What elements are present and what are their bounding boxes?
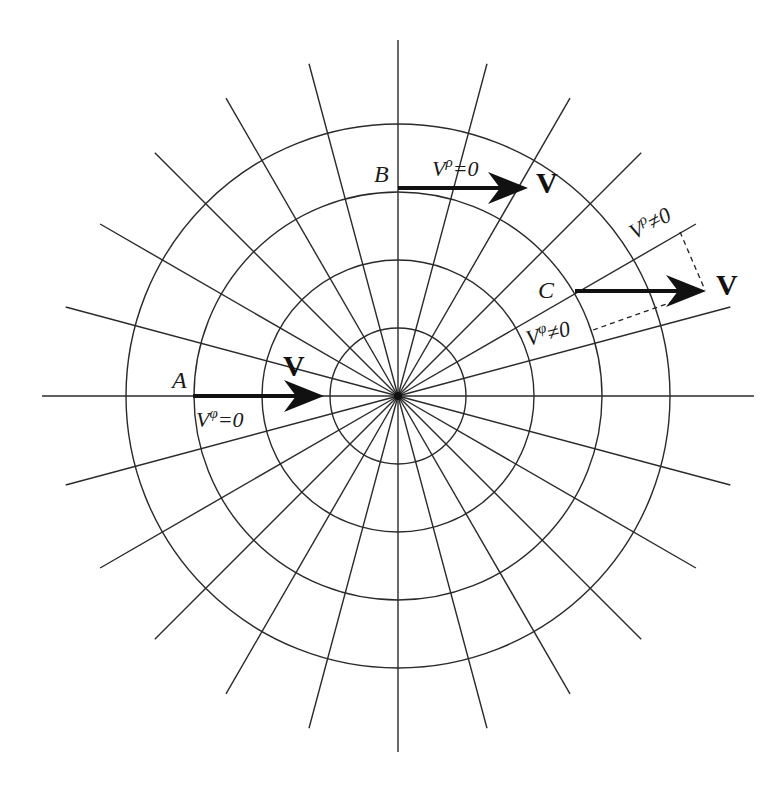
grid-ray-60deg — [398, 98, 570, 396]
vector-b-label: V — [536, 166, 558, 199]
point-c-group: C V Vρ≠0 Vφ≠0 — [523, 200, 738, 351]
grid-ray-120deg — [226, 98, 398, 396]
point-b-label: B — [374, 161, 389, 187]
point-a-label: A — [170, 367, 187, 393]
grid-ray-285deg — [398, 396, 487, 728]
vector-a-label: V — [283, 349, 305, 382]
grid-ray-165deg — [66, 307, 398, 396]
grid-ray-75deg — [398, 64, 487, 396]
grid-ray-345deg — [398, 396, 730, 485]
polar-coordinate-diagram: A V Vφ=0 B V Vρ=0 C V Vρ≠0 Vφ≠0 — [0, 0, 784, 786]
point-c-label: C — [538, 277, 555, 303]
point-a-component-label: Vφ=0 — [196, 405, 244, 432]
vector-c-label: V — [716, 268, 738, 301]
grid-ray-210deg — [100, 396, 398, 568]
point-a-group: A V Vφ=0 — [170, 349, 318, 432]
grid-ray-240deg — [226, 396, 398, 694]
point-c-radial-component-label: Vρ≠0 — [624, 200, 675, 244]
grid-ray-300deg — [398, 396, 570, 694]
grid-ray-330deg — [398, 396, 696, 568]
grid-ray-315deg — [398, 396, 641, 639]
grid-ray-225deg — [155, 396, 398, 639]
origin-dot — [394, 392, 402, 400]
grid-ray-105deg — [309, 64, 398, 396]
grid-ray-135deg — [155, 153, 398, 396]
grid-ray-150deg — [100, 224, 398, 396]
point-b-component-label: Vρ=0 — [432, 154, 479, 181]
vector-c-radial-projection — [680, 232, 705, 290]
grid-ray-255deg — [309, 396, 398, 728]
grid-ray-30deg — [398, 224, 696, 396]
